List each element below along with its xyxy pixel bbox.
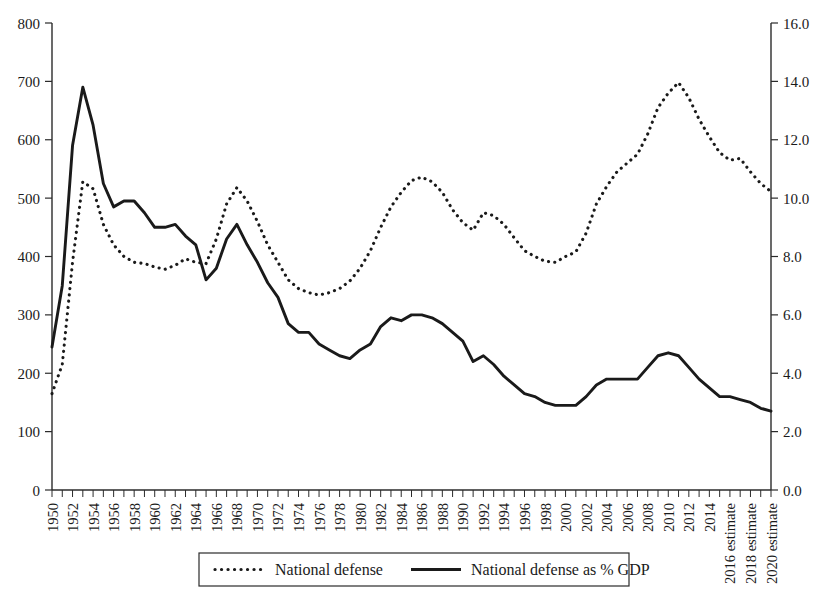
right-axis-tick-label: 14.0: [783, 74, 809, 90]
x-axis-tick-label: 1968: [229, 503, 245, 532]
x-axis-tick-label: 2006: [620, 503, 636, 532]
x-axis-tick-label: 1950: [45, 503, 61, 532]
x-axis-tick-label: 1994: [496, 502, 512, 532]
left-axis-tick-label: 400: [18, 249, 41, 265]
x-axis-tick-label: 2004: [599, 502, 615, 532]
left-axis-tick-label: 600: [18, 132, 41, 148]
x-axis-tick-label: 1954: [86, 502, 102, 532]
x-axis-tick-label: 2000: [558, 503, 574, 532]
chart-background: [0, 0, 822, 603]
left-axis-tick-label: 300: [18, 307, 41, 323]
right-axis-tick-label: 16.0: [783, 16, 809, 32]
x-axis-tick-label: 2012: [681, 503, 697, 532]
x-axis-tick-label: 1974: [291, 502, 307, 532]
defense-spending-line-chart: 0100200300400500600700800 0.02.04.06.08.…: [0, 0, 822, 603]
right-axis-tick-label: 12.0: [783, 132, 809, 148]
x-axis-tick-label: 1962: [168, 503, 184, 532]
x-axis-tick-label: 2014: [702, 502, 718, 532]
x-axis-tick-label: 1978: [332, 503, 348, 532]
x-axis-tick-label: 1998: [538, 503, 554, 532]
x-axis-tick-label: 1952: [65, 503, 81, 532]
left-axis-tick-label: 100: [18, 424, 41, 440]
left-axis-tick-label: 800: [18, 16, 41, 32]
right-axis-tick-label: 8.0: [783, 249, 802, 265]
x-axis-tick-label: 1966: [209, 503, 225, 532]
x-axis-tick-label: 1984: [394, 502, 410, 532]
x-axis-tick-label: 2010: [661, 503, 677, 532]
right-axis-tick-label: 4.0: [783, 366, 802, 382]
x-axis-tick-label: 2016 estimate: [722, 503, 738, 584]
left-axis-tick-label: 200: [18, 366, 41, 382]
x-axis-tick-label: 1980: [353, 503, 369, 532]
x-axis-tick-label: 1960: [147, 503, 163, 532]
x-axis-tick-label: 1992: [476, 503, 492, 532]
left-axis-tick-label: 700: [18, 74, 41, 90]
right-axis-tick-label: 0.0: [783, 483, 802, 499]
left-axis-tick-label: 0: [33, 483, 41, 499]
x-axis-tick-label: 1972: [270, 503, 286, 532]
x-axis-tick-label: 1970: [250, 503, 266, 532]
x-axis-tick-label: 1986: [414, 503, 430, 532]
right-axis-tick-label: 10.0: [783, 191, 809, 207]
chart-figure: 0100200300400500600700800 0.02.04.06.08.…: [0, 0, 822, 603]
x-axis-tick-label: 1982: [373, 503, 389, 532]
left-axis-tick-label: 500: [18, 191, 41, 207]
x-axis-tick-label: 2020 estimate: [764, 503, 780, 584]
legend-label-pct-gdp: National defense as % GDP: [471, 561, 650, 578]
x-axis-tick-label: 2002: [579, 503, 595, 532]
x-axis-tick-label: 1956: [106, 503, 122, 532]
x-axis-tick-label: 2008: [640, 503, 656, 532]
x-axis-tick-label: 1996: [517, 503, 533, 532]
x-axis-tick-label: 1990: [455, 503, 471, 532]
right-axis-tick-label: 6.0: [783, 307, 802, 323]
x-axis-tick-label: 1988: [435, 503, 451, 532]
x-axis-tick-label: 1958: [127, 503, 143, 532]
x-axis-tick-label: 1964: [188, 502, 204, 532]
chart-legend: National defenseNational defense as % GD…: [199, 553, 650, 586]
x-axis-tick-label: 2018 estimate: [743, 503, 759, 584]
x-axis-tick-label: 1976: [312, 503, 328, 532]
legend-label-national-defense: National defense: [275, 561, 383, 578]
right-axis-tick-label: 2.0: [783, 424, 802, 440]
